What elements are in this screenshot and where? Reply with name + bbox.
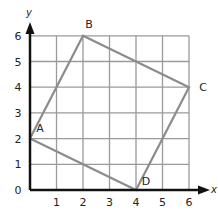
y-tick-label: 6: [15, 30, 22, 43]
y-tick-label: 2: [15, 133, 22, 146]
x-axis-label: x: [210, 184, 217, 195]
point-label-d: D: [142, 175, 150, 188]
y-tick-label: 0: [15, 184, 22, 197]
y-tick-label: 3: [15, 107, 22, 120]
x-axis-arrow-icon: [198, 186, 210, 195]
x-tick-label: 6: [186, 196, 193, 209]
y-tick-label: 5: [15, 56, 22, 69]
x-tick-label: 1: [53, 196, 60, 209]
y-tick-label: 4: [15, 81, 22, 94]
y-axis-label: y: [25, 7, 33, 18]
x-tick-label: 2: [80, 196, 87, 209]
point-label-a: A: [36, 122, 44, 135]
axes: [26, 22, 211, 195]
point-label-c: C: [199, 81, 207, 94]
y-axis-arrow-icon: [26, 22, 35, 34]
x-tick-label: 3: [106, 196, 113, 209]
tick-labels: 1234560123456: [15, 30, 193, 209]
y-tick-label: 1: [15, 158, 22, 171]
coordinate-plane: x y 1234560123456 ABCD: [0, 0, 218, 214]
x-tick-label: 4: [133, 196, 140, 209]
grid-lines: [30, 36, 189, 190]
x-tick-label: 5: [159, 196, 166, 209]
point-label-b: B: [85, 18, 93, 31]
